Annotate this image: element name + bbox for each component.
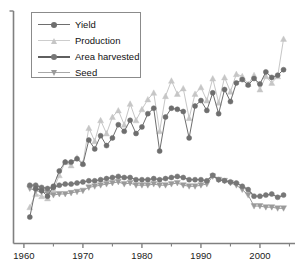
circle-icon [51,22,57,28]
legend-label-production: Production [75,35,120,46]
legend-entry-production: Production [38,33,120,48]
legend-marker-area-harvested [38,51,70,63]
legend-entry-yield: Yield [38,17,96,32]
legend-marker-seed [38,67,70,79]
triangle-up-icon [51,38,57,44]
legend-entry-area-harvested: Area harvested [38,49,139,64]
x-tick-label-1960: 1960 [13,250,34,261]
legend-marker-yield [38,19,70,31]
x-tick-label-1990: 1990 [190,250,211,261]
chart-container: Yield Production Area harvested Seed 196… [0,0,301,269]
circle-icon [51,54,57,60]
legend-label-area-harvested: Area harvested [75,51,139,62]
legend-label-yield: Yield [75,19,96,30]
chart-legend: Yield Production Area harvested Seed [31,12,141,78]
legend-label-seed: Seed [75,67,97,78]
x-tick-label-1980: 1980 [131,250,152,261]
legend-marker-production [38,35,70,47]
x-tick-label-2000: 2000 [249,250,270,261]
legend-entry-seed: Seed [38,65,97,80]
x-tick-label-1970: 1970 [72,250,93,261]
triangle-down-icon [51,70,57,76]
